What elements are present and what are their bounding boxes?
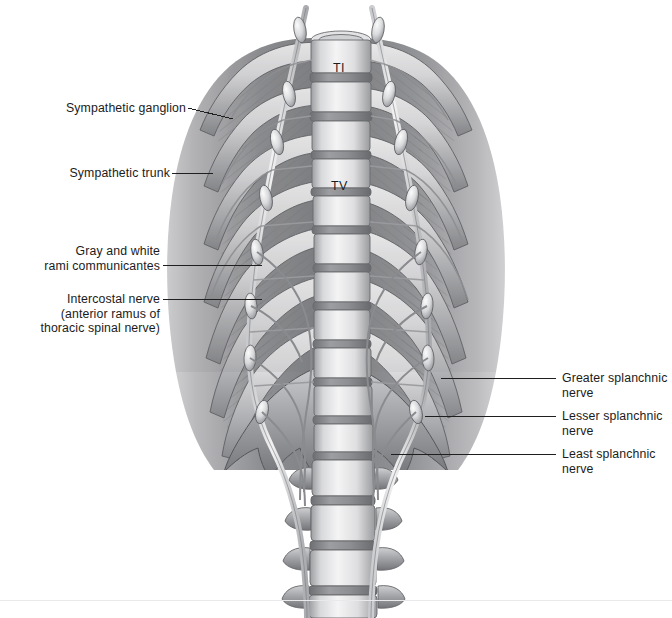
vertebra-label-T5: TV xyxy=(331,179,347,193)
label-gray-and-white-rami-communicantes: Gray and white rami communicantes xyxy=(44,244,160,273)
footer-divider xyxy=(0,600,672,601)
label-least-splanchnic-nerve: Least splanchnic nerve xyxy=(562,447,656,476)
anatomy-figure: TI TV Sympathetic ganglion Sympathetic t… xyxy=(0,0,672,618)
label-intercostal-nerve: Intercostal nerve (anterior ramus of tho… xyxy=(40,292,160,336)
label-greater-splanchnic-nerve: Greater splanchnic nerve xyxy=(562,371,667,400)
vertebra-label-T1: TI xyxy=(333,61,345,75)
label-sympathetic-ganglion: Sympathetic ganglion xyxy=(66,101,186,116)
label-lesser-splanchnic-nerve: Lesser splanchnic nerve xyxy=(562,409,663,438)
label-sympathetic-trunk: Sympathetic trunk xyxy=(69,166,170,181)
